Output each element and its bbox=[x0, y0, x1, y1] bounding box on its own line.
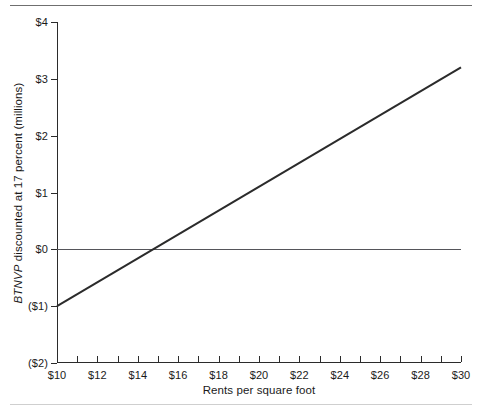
chart-figure: BTNVP discounted at 17 percent (millions… bbox=[0, 0, 482, 409]
y-axis-title-rest: discounted at 17 percent (millions) bbox=[12, 82, 24, 264]
x-tick-label: $20 bbox=[250, 369, 269, 381]
y-tick-label: ($2) bbox=[28, 357, 48, 369]
y-axis-title-emphasis: BTNVP bbox=[12, 264, 24, 303]
y-tick-label: $0 bbox=[36, 243, 48, 255]
y-tick-label: $4 bbox=[36, 16, 48, 28]
y-tick-label: ($1) bbox=[28, 300, 48, 312]
y-axis-title: BTNVP discounted at 17 percent (millions… bbox=[9, 22, 27, 363]
series-layer bbox=[57, 22, 461, 363]
y-tick-label: $3 bbox=[36, 73, 48, 85]
top-divider-rule bbox=[10, 5, 472, 6]
plot-area: $4$3$2$1$0($1)($2) $10$12$14$16$18$20$22… bbox=[57, 22, 461, 363]
x-tick-label: $14 bbox=[128, 369, 147, 381]
x-tick-label: $26 bbox=[371, 369, 390, 381]
x-tick-mark bbox=[461, 356, 462, 362]
x-tick-label: $12 bbox=[88, 369, 107, 381]
y-tick-mark bbox=[51, 363, 57, 364]
bottom-divider-rule bbox=[10, 404, 472, 405]
x-tick-label: $10 bbox=[48, 369, 67, 381]
y-tick-label: $1 bbox=[36, 187, 48, 199]
x-tick-label: $28 bbox=[411, 369, 430, 381]
y-tick-label: $2 bbox=[36, 130, 48, 142]
x-tick-label: $16 bbox=[169, 369, 188, 381]
series-line-btnvp bbox=[57, 67, 461, 306]
x-tick-label: $24 bbox=[330, 369, 349, 381]
x-tick-label: $18 bbox=[209, 369, 228, 381]
x-tick-label: $22 bbox=[290, 369, 309, 381]
x-tick-label: $30 bbox=[452, 369, 471, 381]
x-axis-title: Rents per square foot bbox=[57, 384, 461, 396]
